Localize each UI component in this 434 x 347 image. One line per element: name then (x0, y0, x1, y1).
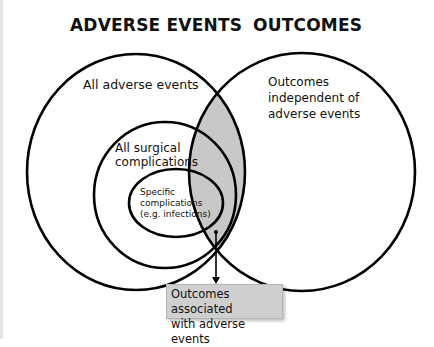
outcomes-heading: OUTCOMES (253, 15, 362, 35)
specific-line3: (e.g. infections) (140, 209, 211, 220)
arrow-origin-dot (214, 230, 218, 234)
arrowhead-icon (212, 277, 220, 284)
all-surgical-complications-label: All surgical complications (115, 141, 198, 169)
adverse-events-heading: ADVERSE EVENTS (70, 15, 242, 35)
all-surgical-line1: All surgical (115, 141, 198, 155)
independent-line1: Outcomes (268, 74, 360, 90)
independent-line3: adverse events (268, 106, 360, 122)
specific-line2: complications (140, 198, 211, 209)
independent-line2: independent of (268, 90, 360, 106)
callout-line2: with adverse events (171, 317, 278, 347)
specific-complications-label: Specific complications (e.g. infections) (140, 187, 211, 220)
specific-line1: Specific (140, 187, 211, 198)
callout-line1: Outcomes associated (171, 287, 278, 317)
associated-outcomes-callout-box: Outcomes associated with adverse events (166, 284, 283, 319)
all-surgical-line2: complications (115, 155, 198, 169)
all-adverse-events-label: All adverse events (83, 78, 199, 92)
independent-outcomes-label: Outcomes independent of adverse events (268, 74, 360, 122)
